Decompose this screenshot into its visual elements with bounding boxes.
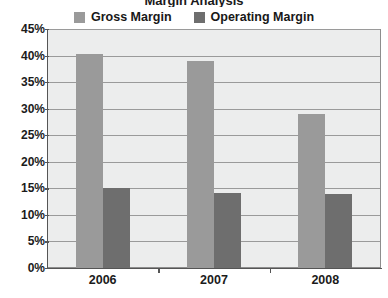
y-axis-tick-label: 30% <box>3 103 45 115</box>
bar-chart: Margin Analysis Gross Margin Operating M… <box>0 0 388 298</box>
x-axis-tick <box>270 268 271 273</box>
x-axis-tick-label: 2007 <box>169 274 259 287</box>
y-axis-tick-label: 15% <box>3 182 45 194</box>
y-axis-tick <box>45 268 49 269</box>
x-axis-line <box>47 268 382 269</box>
chart-legend: Gross Margin Operating Margin <box>0 9 388 25</box>
bars-layer <box>47 29 381 268</box>
bar-2008-gross-margin[interactable] <box>298 114 325 268</box>
bar-2008-operating-margin[interactable] <box>325 194 352 268</box>
legend-item-operating-margin[interactable]: Operating Margin <box>194 11 314 24</box>
y-axis-tick-label: 35% <box>3 76 45 88</box>
legend-swatch-operating-margin <box>194 12 205 23</box>
bar-2007-operating-margin[interactable] <box>214 193 241 268</box>
bar-2006-gross-margin[interactable] <box>76 54 103 268</box>
legend-label-operating-margin: Operating Margin <box>211 11 314 24</box>
bar-2007-gross-margin[interactable] <box>187 61 214 268</box>
y-axis-tick-label: 5% <box>3 235 45 247</box>
y-axis-tick-label: 45% <box>3 23 45 35</box>
legend-label-gross-margin: Gross Margin <box>91 11 172 24</box>
x-axis-tick-label: 2006 <box>58 274 148 287</box>
legend-item-gross-margin[interactable]: Gross Margin <box>74 11 172 24</box>
legend-swatch-gross-margin <box>74 12 85 23</box>
y-axis-tick-label: 0% <box>3 262 45 274</box>
x-axis-tick <box>158 268 159 273</box>
y-axis-tick-label: 25% <box>3 129 45 141</box>
y-axis-tick-label: 20% <box>3 156 45 168</box>
y-axis-tick-label: 40% <box>3 50 45 62</box>
bar-2006-operating-margin[interactable] <box>103 188 130 268</box>
x-axis-tick-label: 2008 <box>280 274 370 287</box>
chart-title: Margin Analysis <box>0 0 388 7</box>
y-axis-tick-label: 10% <box>3 209 45 221</box>
